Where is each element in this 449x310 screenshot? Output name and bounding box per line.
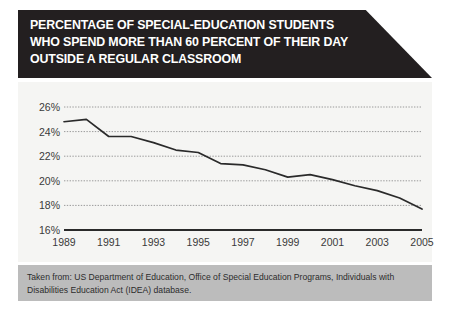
- x-axis-tick-label: 1995: [187, 236, 210, 248]
- footnote-source-text: Taken from: US Department of Education, …: [27, 271, 425, 296]
- page-title-line-1: PERCENTAGE OF SPECIAL-EDUCATION STUDENTS: [30, 17, 380, 34]
- x-axis-tick-label: 1997: [231, 236, 254, 248]
- x-axis-tick-label: 2005: [410, 236, 433, 248]
- page-title-line-2: WHO SPEND MORE THAN 60 PERCENT OF THEIR …: [30, 34, 380, 51]
- x-axis-tick-label: 1993: [142, 236, 165, 248]
- x-axis-tick-label: 2003: [366, 236, 389, 248]
- footnote-band: Taken from: US Department of Education, …: [18, 265, 432, 301]
- page-title: PERCENTAGE OF SPECIAL-EDUCATION STUDENTS…: [30, 17, 380, 69]
- title-banner: PERCENTAGE OF SPECIAL-EDUCATION STUDENTS…: [18, 10, 432, 78]
- page-title-line-3: OUTSIDE A REGULAR CLASSROOM: [30, 51, 380, 68]
- x-axis-tick-label: 2001: [321, 236, 344, 248]
- chart-figure: PERCENTAGE OF SPECIAL-EDUCATION STUDENTS…: [0, 0, 449, 310]
- x-axis-tick-label: 1999: [276, 236, 299, 248]
- x-axis-tick-labels: 198919911993199519971999200120032005: [18, 82, 432, 262]
- x-axis-tick-label: 1991: [97, 236, 120, 248]
- chart-card: 16%18%20%22%24%26% 198919911993199519971…: [18, 82, 432, 262]
- x-axis-tick-label: 1989: [52, 236, 75, 248]
- plot-area: 16%18%20%22%24%26% 198919911993199519971…: [18, 82, 432, 262]
